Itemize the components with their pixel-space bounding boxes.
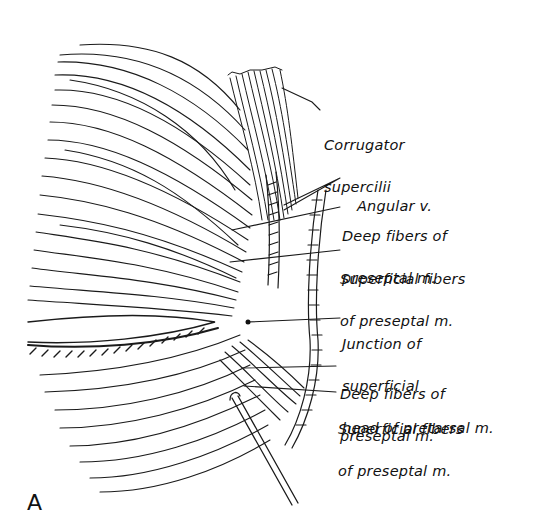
upper-preseptal-fibers xyxy=(28,44,252,316)
angular-vein xyxy=(266,172,279,288)
probe-instrument xyxy=(230,393,298,505)
lower-preseptal-fibers xyxy=(40,335,304,492)
label-superficial-fibers-preseptal-lower: Superficial fibers of preseptal m. xyxy=(338,394,464,492)
panel-letter: A xyxy=(27,490,42,515)
corrugator-supercilii xyxy=(228,67,298,220)
junction-point-marker xyxy=(246,320,251,325)
palpebral-fissure xyxy=(28,316,218,357)
